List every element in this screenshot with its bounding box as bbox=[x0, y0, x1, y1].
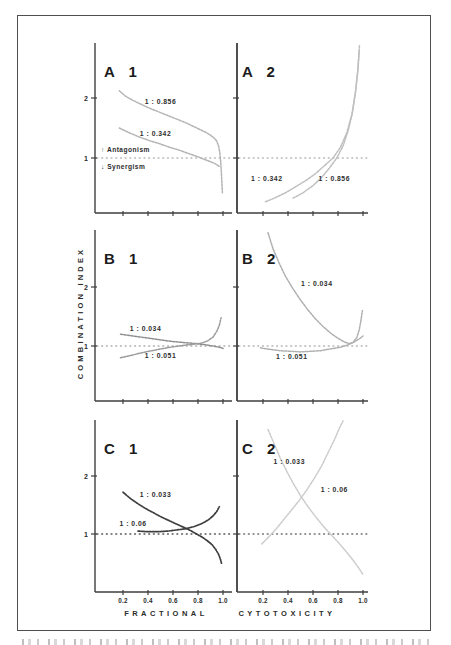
y-tick-label: 1 bbox=[84, 531, 88, 538]
x-tick-label: 1.0 bbox=[218, 597, 228, 604]
x-tick-label: 0.8 bbox=[333, 597, 343, 604]
x-axis-title-cytotoxicity: CYTOTOXICITY bbox=[238, 609, 335, 618]
x-tick-label: 1.0 bbox=[358, 597, 368, 604]
panel-B1: 12B 11 : 0.0341 : 0.051 bbox=[84, 230, 232, 404]
x-tick-label: 0.2 bbox=[258, 597, 268, 604]
panel-B2: B 21 : 0.0341 : 0.051 bbox=[233, 230, 368, 404]
x-tick-label: 0.4 bbox=[283, 597, 293, 604]
series-curve bbox=[268, 233, 362, 344]
ratio-label: 1 : 0.034 bbox=[130, 325, 161, 332]
ratio-label: 1 : 0.856 bbox=[319, 175, 350, 182]
ratio-label: 1 : 0.051 bbox=[276, 353, 307, 360]
panel-A2: A 21 : 0.3421 : 0.856 bbox=[233, 43, 368, 216]
panel-letter: B 1 bbox=[104, 250, 142, 267]
synergism-label: ↓ Synergism bbox=[101, 163, 145, 171]
antagonism-label: ↑ Antagonism bbox=[101, 146, 150, 154]
panel-C1: 120.20.40.60.81.0C 11 : 0.0331 : 0.06 bbox=[84, 420, 232, 604]
y-axis-title: COMBINATION INDEX bbox=[76, 247, 85, 380]
panel-letter: C 2 bbox=[242, 440, 280, 457]
panel-letter: A 2 bbox=[242, 63, 280, 80]
ratio-label: 1 : 0.342 bbox=[140, 130, 171, 137]
ratio-label: 1 : 0.856 bbox=[145, 98, 176, 105]
figure-page: 12A 11 : 0.8561 : 0.342↑ Antagonism↓ Syn… bbox=[0, 0, 451, 645]
x-tick-label: 0.6 bbox=[168, 597, 178, 604]
panel-letter: A 1 bbox=[104, 63, 142, 80]
ratio-label: 1 : 0.033 bbox=[274, 458, 305, 465]
x-tick-label: 0.4 bbox=[143, 597, 153, 604]
caption-cutoff-text bbox=[22, 639, 430, 645]
y-tick-label: 2 bbox=[84, 284, 88, 291]
y-tick-label: 2 bbox=[84, 95, 88, 102]
x-tick-label: 0.6 bbox=[308, 597, 318, 604]
ratio-label: 1 : 0.034 bbox=[301, 280, 332, 287]
y-tick-label: 1 bbox=[84, 155, 88, 162]
panel-letter: B 2 bbox=[242, 250, 280, 267]
panel-C2: 0.20.40.60.81.0C 21 : 0.0331 : 0.06 bbox=[233, 420, 368, 604]
x-tick-label: 0.8 bbox=[193, 597, 203, 604]
panel-letter: C 1 bbox=[104, 440, 142, 457]
series-curve bbox=[119, 91, 222, 193]
ratio-label: 1 : 0.033 bbox=[140, 491, 171, 498]
series-curve bbox=[261, 336, 364, 352]
series-curve bbox=[268, 430, 363, 575]
y-tick-label: 1 bbox=[84, 343, 88, 350]
ratio-label: 1 : 0.06 bbox=[321, 486, 348, 493]
ratio-label: 1 : 0.051 bbox=[145, 352, 176, 359]
x-axis-title-fractional: FRACTIONAL bbox=[124, 609, 208, 618]
ratio-label: 1 : 0.342 bbox=[251, 175, 282, 182]
y-tick-label: 2 bbox=[84, 473, 88, 480]
panel-A1: 12A 11 : 0.8561 : 0.342↑ Antagonism↓ Syn… bbox=[84, 43, 232, 216]
x-tick-label: 0.2 bbox=[118, 597, 128, 604]
series-curve bbox=[123, 492, 222, 564]
ratio-label: 1 : 0.06 bbox=[119, 520, 146, 527]
plots-canvas: 12A 11 : 0.8561 : 0.342↑ Antagonism↓ Syn… bbox=[0, 0, 451, 645]
